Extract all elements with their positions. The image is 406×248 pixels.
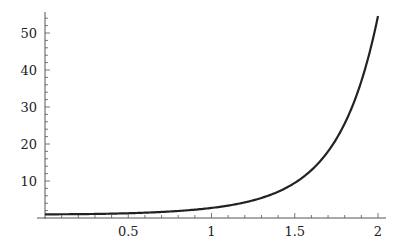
y-tick-label: 40 (20, 63, 37, 78)
x-axis: 0.511.52 (37, 213, 386, 239)
y-tick-label: 30 (20, 100, 37, 115)
y-tick-label: 50 (20, 26, 37, 41)
x-tick-label: 1.5 (284, 224, 305, 239)
y-axis: 1020304050 (20, 12, 50, 219)
x-tick-label: 2 (374, 224, 382, 239)
data-curve (45, 16, 378, 214)
x-tick-label: 1 (207, 224, 215, 239)
x-tick-label: 0.5 (118, 224, 139, 239)
y-tick-label: 20 (20, 137, 37, 152)
line-chart: 1020304050 0.511.52 (0, 0, 406, 248)
y-tick-label: 10 (20, 174, 37, 189)
